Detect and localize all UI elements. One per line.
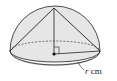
center-point [52, 52, 55, 55]
hemisphere-cone-diagram: r cm [0, 0, 117, 81]
radius-label: r cm [85, 66, 102, 76]
radius-unit: cm [89, 66, 102, 76]
